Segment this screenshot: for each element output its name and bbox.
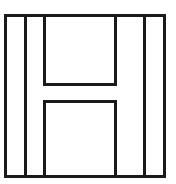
h-outline-drawing (0, 0, 176, 184)
figure-canvas (0, 0, 176, 184)
